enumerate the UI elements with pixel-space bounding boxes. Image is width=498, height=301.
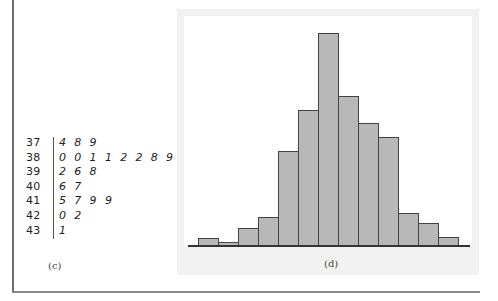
stem-leaf-row: 374 8 9 <box>26 136 175 151</box>
leaf-values: 5 7 9 9 <box>53 194 114 209</box>
stem-value: 38 <box>26 151 53 166</box>
histogram-bar <box>318 33 339 246</box>
stem-leaf-row: 415 7 9 9 <box>26 194 175 209</box>
figure-frame-left <box>12 0 14 293</box>
stem-leaf-row: 380 0 1 1 2 2 8 9 <box>26 151 175 166</box>
leaf-values: 0 0 1 1 2 2 8 9 <box>53 151 175 166</box>
leaf-values: 4 8 9 <box>53 136 99 151</box>
histogram-bar <box>278 151 299 246</box>
stem-value: 39 <box>26 165 53 180</box>
histogram-bar <box>238 228 259 246</box>
stem-value: 42 <box>26 209 53 224</box>
histogram-bar <box>338 96 359 246</box>
stem-value: 43 <box>26 224 53 239</box>
leaf-values: 6 7 <box>53 180 84 195</box>
leaf-values: 2 6 8 <box>53 165 99 180</box>
panel-label-d: (d) <box>324 258 338 269</box>
histogram-bar <box>298 110 319 246</box>
histogram-bar <box>418 223 439 246</box>
figure-frame-bottom <box>12 291 480 293</box>
stem-leaf-row: 420 2 <box>26 209 175 224</box>
stem-leaf-divider <box>53 137 54 239</box>
stem-leaf-row: 406 7 <box>26 180 175 195</box>
stem-leaf-display: 374 8 9380 0 1 1 2 2 8 9392 6 8406 7415 … <box>26 136 175 238</box>
stem-leaf-row: 392 6 8 <box>26 165 175 180</box>
leaf-values: 1 <box>53 224 68 239</box>
stem-leaf-row: 431 <box>26 224 175 239</box>
histogram-bar <box>378 137 399 246</box>
stem-value: 41 <box>26 194 53 209</box>
stem-value: 40 <box>26 180 53 195</box>
stem-value: 37 <box>26 136 53 151</box>
histogram-x-axis <box>188 245 470 247</box>
panel-label-c: (c) <box>48 260 61 271</box>
histogram-bar <box>258 217 279 246</box>
histogram-bar <box>358 123 379 246</box>
leaf-values: 0 2 <box>53 209 84 224</box>
histogram-bar <box>398 213 419 246</box>
